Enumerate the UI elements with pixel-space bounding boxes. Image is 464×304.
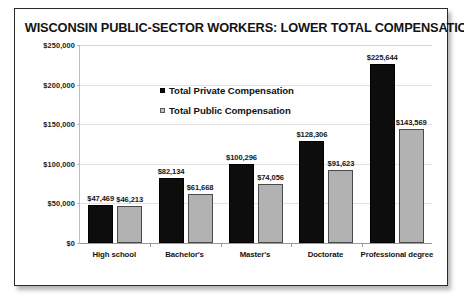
- bar-value-label: $143,569: [391, 118, 432, 127]
- legend-label-private: Total Private Compensation: [169, 85, 294, 96]
- bar-value-label: $82,134: [151, 167, 192, 176]
- bar-private: [88, 205, 113, 243]
- legend-item-private: Total Private Compensation: [160, 85, 294, 96]
- y-axis-tick-label: $50,000: [48, 199, 75, 208]
- legend-swatch-public-icon: [160, 108, 165, 113]
- x-axis-category-label: Bachelor's: [149, 250, 219, 259]
- x-axis-category-label: Professional degree: [361, 250, 431, 259]
- legend-item-public: Total Public Compensation: [160, 105, 294, 116]
- bar-value-label: $61,668: [180, 183, 221, 192]
- y-axis-tick-label: $0: [67, 239, 75, 248]
- y-axis-tick: [77, 124, 80, 125]
- chart-title: WISCONSIN PUBLIC-SECTOR WORKERS: LOWER T…: [25, 20, 439, 35]
- chart-page: WISCONSIN PUBLIC-SECTOR WORKERS: LOWER T…: [0, 0, 464, 304]
- bar-public: [117, 206, 142, 243]
- bar-public: [328, 170, 353, 243]
- plot-area: Total Private Compensation Total Public …: [79, 45, 432, 244]
- y-axis-tick: [77, 203, 80, 204]
- y-axis-tick-label: $150,000: [43, 120, 75, 129]
- y-axis-tick-label: $200,000: [43, 80, 75, 89]
- legend-swatch-private-icon: [160, 88, 165, 93]
- bar-public: [188, 194, 213, 243]
- y-axis-labels: $250,000$200,000$150,000$100,000$50,000$…: [27, 45, 77, 243]
- bar-value-label: $128,306: [291, 130, 332, 139]
- x-axis-labels: High schoolBachelor'sMaster'sDoctoratePr…: [79, 246, 431, 266]
- legend-label-public: Total Public Compensation: [169, 105, 291, 116]
- bar-private: [370, 64, 395, 243]
- chart-legend: Total Private Compensation Total Public …: [160, 85, 294, 125]
- x-axis-category-label: Master's: [220, 250, 290, 259]
- chart-card: WISCONSIN PUBLIC-SECTOR WORKERS: LOWER T…: [14, 8, 448, 286]
- y-axis-tick: [77, 164, 80, 165]
- bar-value-label: $100,296: [221, 153, 262, 162]
- bar-value-label: $225,644: [362, 53, 403, 62]
- bar-value-label: $74,056: [250, 173, 291, 182]
- bar-private: [299, 141, 324, 243]
- x-axis-category-label: Doctorate: [290, 250, 360, 259]
- bar-value-label: $91,623: [320, 159, 361, 168]
- y-axis-tick-label: $100,000: [43, 159, 75, 168]
- bar-public: [258, 184, 283, 243]
- y-axis-tick: [77, 243, 80, 244]
- y-axis-tick: [77, 85, 80, 86]
- y-axis-tick-label: $250,000: [43, 41, 75, 50]
- y-axis-tick: [77, 45, 80, 46]
- bar-public: [399, 129, 424, 243]
- gridline: [80, 45, 432, 46]
- plot-area-wrapper: $250,000$200,000$150,000$100,000$50,000$…: [27, 45, 437, 275]
- bar-value-label: $46,213: [109, 195, 150, 204]
- x-axis-category-label: High school: [79, 250, 149, 259]
